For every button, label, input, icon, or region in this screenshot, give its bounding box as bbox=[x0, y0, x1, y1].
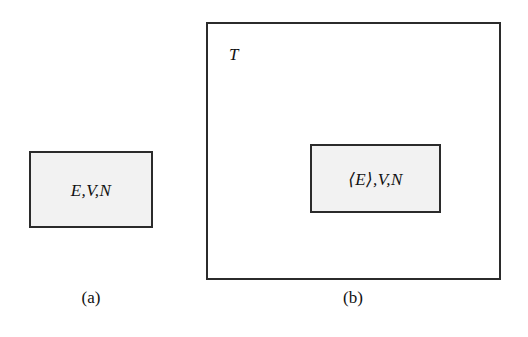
panel-b-system-box: ⟨E⟩,V,N bbox=[310, 144, 441, 213]
panel-b-reservoir-label: T bbox=[229, 46, 238, 63]
panel-b-caption: (b) bbox=[319, 289, 387, 306]
panel-b-system-label: ⟨E⟩,V,N bbox=[312, 170, 439, 187]
ensembles-figure: E,V,N (a) T ⟨E⟩,V,N (b) bbox=[0, 0, 528, 337]
panel-a-caption: (a) bbox=[57, 289, 125, 306]
panel-a-system-label: E,V,N bbox=[31, 181, 151, 198]
panel-a-system-box: E,V,N bbox=[29, 151, 153, 228]
